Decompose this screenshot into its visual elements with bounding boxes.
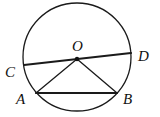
label-b: B <box>123 91 132 107</box>
label-o: O <box>72 38 83 54</box>
label-a: A <box>15 91 26 107</box>
circle-geometry-diagram: O C D A B <box>0 0 160 117</box>
radius-oa <box>36 59 77 93</box>
radius-ob <box>77 59 117 93</box>
center-point-o <box>75 57 79 61</box>
label-c: C <box>5 64 16 80</box>
label-d: D <box>137 48 149 64</box>
